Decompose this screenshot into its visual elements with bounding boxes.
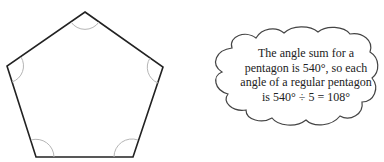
callout-line: angle of a regular pentagon xyxy=(222,75,384,90)
callout-text: The angle sum for a pentagon is 540°, so… xyxy=(222,46,384,104)
callout-line: pentagon is 540°, so each xyxy=(222,61,384,76)
pentagon xyxy=(7,12,163,157)
callout-line: is 540° ÷ 5 = 108° xyxy=(222,90,384,105)
callout-line: The angle sum for a xyxy=(222,46,384,61)
